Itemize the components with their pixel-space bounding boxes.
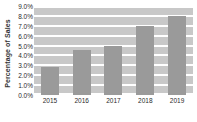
y-axis-title: Percentage of Sales: [0, 10, 14, 96]
x-tick-label: 2018: [129, 97, 161, 104]
y-tick-label: 7.0%: [13, 22, 33, 29]
bar: [41, 67, 59, 95]
bar-slot: [129, 6, 161, 95]
x-tick-label: 2016: [66, 97, 98, 104]
x-tick-label: 2019: [161, 97, 193, 104]
y-tick-label: 9.0%: [13, 3, 33, 10]
y-tick-label: 5.0%: [13, 42, 33, 49]
y-tick-label: 0.0%: [13, 92, 33, 99]
y-tick-label: 2.0%: [13, 72, 33, 79]
y-axis-title-label: Percentage of Sales: [4, 19, 11, 87]
bar: [104, 46, 122, 95]
bar-chart-figure: Percentage of Sales 0.0%1.0%2.0%3.0%4.0%…: [0, 0, 197, 122]
bar-slot: [34, 6, 66, 95]
y-axis-tick-labels: 0.0%1.0%2.0%3.0%4.0%5.0%6.0%7.0%8.0%9.0%: [13, 6, 34, 95]
bars-layer: [34, 6, 193, 95]
x-tick-label: 2015: [34, 97, 66, 104]
x-tick-label: 2017: [98, 97, 130, 104]
bar-slot: [66, 6, 98, 95]
y-tick-label: 3.0%: [13, 62, 33, 69]
y-tick-label: 1.0%: [13, 82, 33, 89]
y-tick-label: 8.0%: [13, 12, 33, 19]
x-axis-tick-labels: 20152016201720182019: [34, 97, 193, 109]
bar-slot: [98, 6, 130, 95]
y-tick-label: 4.0%: [13, 52, 33, 59]
bar: [136, 26, 154, 95]
bar: [73, 50, 91, 95]
bar-slot: [161, 6, 193, 95]
y-tick-label: 6.0%: [13, 32, 33, 39]
plot-area: [34, 6, 193, 95]
bar: [168, 16, 186, 95]
